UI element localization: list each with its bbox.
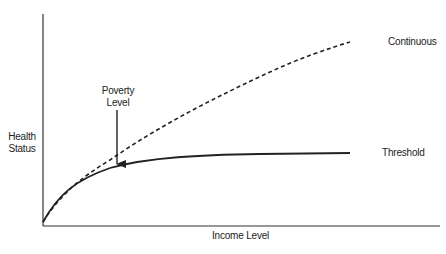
- continuous-label: Continuous: [388, 36, 437, 48]
- poverty-level-label: Poverty Level: [96, 85, 140, 109]
- threshold-label: Threshold: [382, 147, 425, 159]
- poverty-label-line1: Poverty: [96, 85, 140, 97]
- poverty-label-line2: Level: [96, 97, 140, 109]
- threshold-curve: [43, 153, 350, 222]
- y-axis-label: Health Status: [4, 131, 40, 155]
- y-axis-label-line2: Status: [4, 143, 40, 155]
- continuous-curve: [43, 42, 350, 222]
- chart-canvas: [0, 0, 446, 254]
- x-axis-label: Income Level: [212, 230, 269, 242]
- y-axis-label-line1: Health: [4, 131, 40, 143]
